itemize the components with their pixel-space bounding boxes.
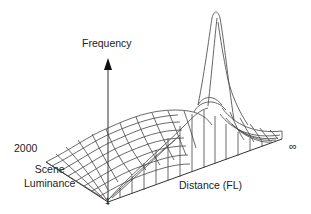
luminance-max-tick: 2000 xyxy=(14,143,37,154)
luminance-axis-label: Scene Luminance xyxy=(24,164,75,188)
luminance-axis-label-line1: Scene xyxy=(24,164,75,175)
frequency-axis-arrowhead-icon xyxy=(104,58,112,70)
distance-base-edge xyxy=(108,139,282,202)
origin-tick: 1 xyxy=(105,197,110,206)
surface-mesh-right xyxy=(220,108,282,142)
surface-plot-diagram: Frequency 2000 Scene Luminance 1 Distanc… xyxy=(0,0,311,214)
luminance-axis-label-line2: Luminance xyxy=(24,178,75,189)
surface-peak xyxy=(194,12,248,125)
frequency-axis-label: Frequency xyxy=(82,38,132,49)
distance-axis-label: Distance (FL) xyxy=(179,180,242,191)
distance-max-tick: ∞ xyxy=(289,141,297,152)
